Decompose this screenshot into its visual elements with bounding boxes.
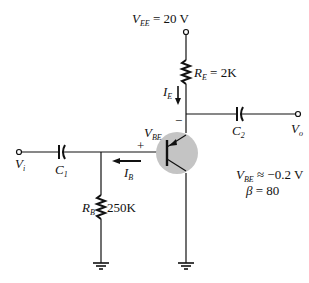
vee-terminal-icon xyxy=(184,30,189,35)
re-resistor-icon xyxy=(182,60,190,84)
rb-value: 250K xyxy=(107,201,136,214)
vo-terminal-icon xyxy=(296,112,301,117)
plus-sign: + xyxy=(137,139,144,152)
pnp-transistor-icon xyxy=(156,132,198,174)
vbe-param: VBE ≈ −0.2 V xyxy=(236,168,303,184)
ib-arrow-icon xyxy=(112,158,141,164)
beta-param: β = 80 xyxy=(246,184,279,197)
rb-label: RB xyxy=(82,201,95,217)
rb-resistor-icon xyxy=(97,195,105,219)
minus-sign: − xyxy=(175,114,182,127)
vo-label: Vo xyxy=(291,122,303,138)
circuit-diagram: VEE = 20 V RE = 2K IE − VBE + C2 Vo Vi C… xyxy=(0,0,309,283)
vee-label: VEE = 20 V xyxy=(132,12,189,28)
vbe-label: VBE xyxy=(144,126,162,142)
c2-label: C2 xyxy=(232,124,245,140)
ib-label: IB xyxy=(124,166,133,182)
ie-label: IE xyxy=(163,85,172,101)
re-label: RE = 2K xyxy=(194,66,237,82)
vi-label: Vi xyxy=(15,157,25,173)
c1-label: C1 xyxy=(55,163,68,179)
vi-terminal-icon xyxy=(17,150,22,155)
ie-arrow-icon xyxy=(175,86,181,105)
